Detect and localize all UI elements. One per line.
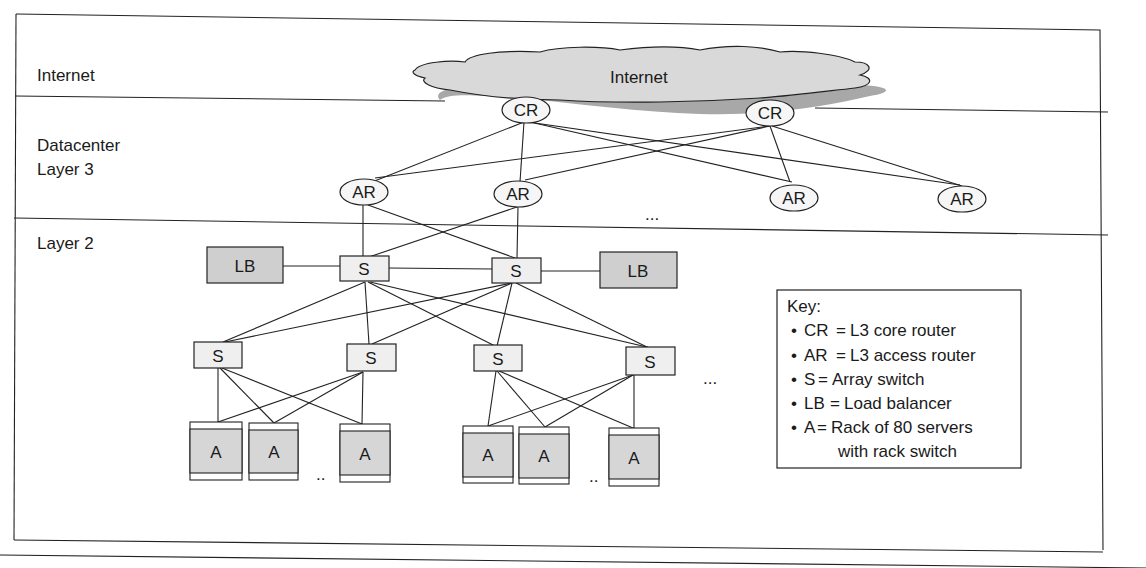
svg-text:S: S (510, 262, 521, 281)
array-switch-3: S (474, 345, 522, 371)
access-router-3: AR (770, 185, 818, 211)
svg-text:S: S (212, 347, 223, 366)
cr-ar-links (372, 122, 962, 186)
key-item-cr: • CR = L3 core router (791, 321, 956, 340)
svg-text:AR: AR (804, 346, 828, 365)
racks-group2-ellipsis: .. (589, 467, 598, 486)
lb-s-links (283, 266, 600, 271)
layer-label-layer3: Layer 3 (37, 160, 94, 179)
svg-text:L3 core router: L3 core router (850, 321, 956, 340)
svg-text:AR: AR (352, 183, 376, 202)
layer-label-internet: Internet (37, 66, 95, 85)
core-router-1: CR (502, 97, 550, 123)
svg-text:•: • (791, 418, 797, 437)
diagram-canvas: Internet Datacenter Layer 3 Layer 2 Inte… (0, 0, 1146, 568)
rack-2: A (249, 423, 298, 480)
array-switch-2: S (347, 344, 396, 371)
key-item-a: • A = Rack of 80 servers (791, 418, 973, 437)
svg-text:S: S (804, 370, 815, 389)
svg-text:A: A (804, 418, 816, 437)
top-switch-1: S (340, 256, 389, 281)
svg-text:S: S (492, 350, 503, 369)
svg-text:CR: CR (514, 101, 539, 120)
svg-text:S: S (358, 260, 369, 279)
layer-label-layer2: Layer 2 (37, 234, 94, 253)
array-switch-1: S (194, 342, 242, 368)
svg-text:•: • (791, 394, 797, 413)
s-array-links (223, 282, 651, 348)
top-switch-2: S (492, 258, 541, 283)
svg-text:AR: AR (782, 189, 806, 208)
load-balancer-1: LB (207, 247, 283, 283)
key-item-s: • S = Array switch (791, 370, 925, 389)
svg-text:L3 access router: L3 access router (850, 346, 976, 365)
racks-group1-ellipsis: .. (316, 465, 325, 484)
svg-text:•: • (791, 370, 797, 389)
svg-text:=: = (817, 418, 827, 437)
svg-text:A: A (482, 446, 494, 465)
rack-6: A (609, 428, 659, 486)
svg-text:Rack of 80 servers: Rack of 80 servers (831, 418, 973, 437)
load-balancer-2: LB (600, 252, 677, 288)
access-router-4: AR (938, 186, 986, 212)
svg-text:AR: AR (506, 185, 530, 204)
svg-text:CR: CR (804, 321, 829, 340)
key-item-lb: • LB = Load balancer (791, 394, 952, 413)
svg-text:=: = (830, 394, 840, 413)
access-router-1: AR (340, 179, 388, 205)
cloud-label: Internet (610, 68, 668, 87)
svg-text:S: S (644, 353, 655, 372)
svg-text:A: A (628, 449, 640, 468)
layer-separators (14, 96, 1108, 235)
svg-text:A: A (538, 447, 550, 466)
svg-text:A: A (359, 445, 371, 464)
svg-text:AR: AR (950, 190, 974, 209)
svg-text:LB: LB (235, 257, 256, 276)
internet-cloud: Internet (413, 46, 886, 114)
key-item-a-continuation: with rack switch (837, 442, 957, 461)
layer-label-datacenter: Datacenter (37, 136, 120, 155)
svg-text:=: = (836, 321, 846, 340)
svg-text:A: A (210, 443, 222, 462)
array-switches-ellipsis: ... (703, 369, 717, 388)
svg-text:A: A (268, 443, 280, 462)
svg-text:LB: LB (628, 262, 649, 281)
array-switch-4: S (626, 347, 675, 375)
svg-text:CR: CR (758, 104, 783, 123)
svg-text:=: = (836, 346, 846, 365)
core-router-2: CR (746, 100, 794, 126)
svg-text:Array switch: Array switch (832, 370, 925, 389)
svg-text:=: = (818, 370, 828, 389)
svg-text:LB: LB (804, 394, 825, 413)
rack-3: A (340, 424, 390, 482)
key-legend: Key: • CR = L3 core router • AR = L3 acc… (777, 290, 1021, 468)
svg-text:S: S (365, 349, 376, 368)
key-item-ar: • AR = L3 access router (791, 346, 976, 365)
rack-4: A (463, 426, 513, 483)
svg-text:Load balancer: Load balancer (844, 394, 952, 413)
array-rack-links (218, 368, 634, 428)
key-title: Key: (787, 297, 821, 316)
access-router-2: AR (494, 181, 542, 207)
svg-text:•: • (791, 346, 797, 365)
rack-1: A (190, 422, 242, 480)
rack-5: A (519, 427, 569, 484)
ar-s-links (363, 205, 518, 259)
access-routers-ellipsis: ... (645, 205, 659, 224)
svg-text:•: • (791, 321, 797, 340)
